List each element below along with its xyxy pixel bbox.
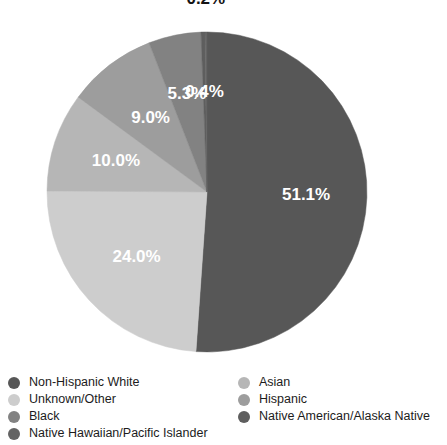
pie-chart-svg: 51.1%24.0%10.0%9.0%5.3%0.4%0.2% [0, 0, 447, 372]
legend-item-label: Native Hawaiian/Pacific Islander [29, 426, 208, 441]
legend-item-label: Hispanic [259, 392, 307, 407]
legend-item-label: Native American/Alaska Native [259, 409, 430, 424]
legend-swatch-icon [8, 394, 20, 406]
pie-slice-percent-label: 0.4% [185, 82, 224, 101]
pie-chart-area: 51.1%24.0%10.0%9.0%5.3%0.4%0.2% [0, 0, 447, 372]
legend-item[interactable]: Native American/Alaska Native [238, 409, 447, 424]
legend-swatch-icon [238, 394, 250, 406]
pie-slice-percent-label: 24.0% [112, 247, 160, 266]
legend-item[interactable]: Native Hawaiian/Pacific Islander [8, 426, 228, 441]
pie-slice-percent-label: 9.0% [131, 108, 170, 127]
legend-item-label: Black [29, 409, 60, 424]
legend-item[interactable]: Hispanic [238, 392, 447, 407]
legend-item[interactable]: Black [8, 409, 228, 424]
legend-item-label: Asian [259, 375, 290, 390]
legend-item[interactable]: Unknown/Other [8, 392, 228, 407]
legend-item-label: Non-Hispanic White [29, 375, 139, 390]
legend-column-right: AsianHispanicNative American/Alaska Nati… [228, 372, 447, 445]
legend-item-label: Unknown/Other [29, 392, 116, 407]
pie-slice-percent-label: 10.0% [92, 151, 140, 170]
legend-item[interactable]: Non-Hispanic White [8, 375, 228, 390]
pie-slice-percent-label: 0.2% [186, 0, 225, 8]
pie-slice-percent-label: 51.1% [282, 185, 330, 204]
chart-legend: Non-Hispanic WhiteUnknown/OtherBlackNati… [0, 372, 447, 445]
legend-swatch-icon [8, 377, 20, 389]
legend-swatch-icon [8, 411, 20, 423]
legend-swatch-icon [8, 428, 20, 440]
legend-swatch-icon [238, 411, 250, 423]
pie-slice[interactable] [47, 191, 207, 352]
legend-column-left: Non-Hispanic WhiteUnknown/OtherBlackNati… [0, 372, 228, 445]
legend-item[interactable]: Asian [238, 375, 447, 390]
legend-swatch-icon [238, 377, 250, 389]
